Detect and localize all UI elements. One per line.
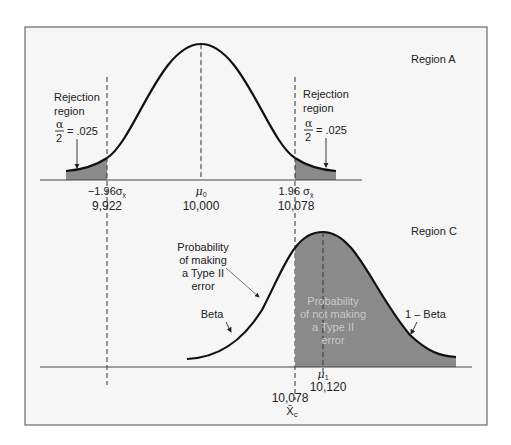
left-rejection-label-line2: region (54, 105, 85, 117)
one-minus-beta-label: 1 – Beta (405, 308, 447, 320)
type2-label-line2: of making (179, 254, 227, 266)
power-inside-label-line4: error (321, 334, 345, 346)
type2-label-line4: error (191, 280, 215, 292)
left-alpha-numerator: α (56, 118, 64, 131)
left-alpha-denominator: 2 (56, 132, 62, 144)
upper-critical-value: 10,078 (278, 199, 315, 213)
right-alpha-equation: = .025 (316, 124, 347, 136)
beta-label: Beta (201, 308, 225, 320)
right-rejection-label-line2: region (303, 102, 334, 114)
mu1-value: 10,120 (310, 380, 347, 394)
lower-critical-symbol: −1.96σx̄ (88, 185, 127, 199)
left-alpha-equation: = .025 (67, 125, 98, 137)
critical-value-c: 10,078 (272, 391, 309, 405)
type2-label-line3: a Type II (182, 267, 224, 279)
type2-label-line1: Probability (177, 241, 229, 253)
left-rejection-label-line1: Rejection (54, 91, 100, 103)
power-inside-label-line2: of not making (300, 308, 366, 320)
lower-critical-value: 9,922 (92, 199, 122, 213)
right-alpha-numerator: α (305, 117, 313, 130)
region-a-title: Region A (411, 53, 456, 65)
upper-critical-symbol: 1.96 σx̄ (279, 185, 314, 199)
power-inside-label-line3: a Type II (312, 321, 354, 333)
mu0-value: 10,000 (183, 199, 220, 213)
right-rejection-label-line1: Rejection (303, 88, 349, 100)
power-inside-label-line1: Probability (307, 295, 359, 307)
right-alpha-denominator: 2 (305, 131, 311, 143)
region-c-title: Region C (411, 225, 457, 237)
hypothesis-test-diagram: Region A Rejection region α 2 = .025 Rej… (0, 0, 511, 445)
